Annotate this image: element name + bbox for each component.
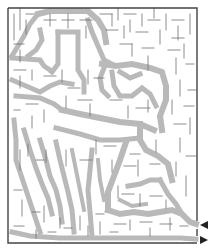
shaded-picture	[12, 11, 196, 239]
exit-arrow-icon	[200, 236, 208, 244]
maze-puzzle	[0, 0, 211, 248]
entrance-arrow-icon	[200, 221, 208, 229]
